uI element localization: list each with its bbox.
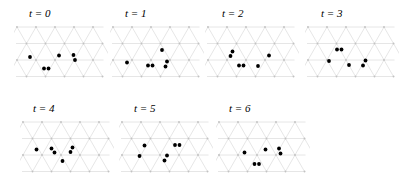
- lattice-node: [51, 171, 53, 173]
- lattice-node: [294, 121, 296, 123]
- particle-dot: [361, 64, 365, 68]
- particle-dot: [125, 61, 129, 65]
- lattice-node: [159, 154, 161, 156]
- particle-dot: [35, 148, 39, 152]
- lattice-plot: [20, 119, 114, 177]
- lattice-node: [264, 26, 266, 28]
- lattice-node: [98, 121, 100, 123]
- particle-dot: [253, 162, 257, 166]
- lattice-node: [245, 59, 247, 61]
- lattice-node: [98, 154, 100, 156]
- particle-dot: [178, 143, 182, 147]
- lattice-edges: [305, 27, 399, 77]
- particle-dot: [61, 159, 65, 163]
- lattice-node: [255, 43, 257, 45]
- lattice-edges: [216, 122, 310, 172]
- lattice-node: [293, 43, 295, 45]
- lattice-node: [35, 59, 37, 61]
- lattice-node: [285, 138, 287, 140]
- lattice-node: [64, 76, 66, 78]
- particle-dot: [163, 159, 167, 163]
- panel-time-label: t = 5: [134, 103, 155, 114]
- lattice-node: [393, 76, 395, 78]
- lattice-node: [22, 121, 24, 123]
- panel-time-label: t = 3: [321, 8, 342, 19]
- particle-dot: [143, 144, 147, 148]
- lattice-node: [217, 76, 219, 78]
- lattice-node: [197, 154, 199, 156]
- lattice-node: [326, 26, 328, 28]
- lattice-node: [89, 138, 91, 140]
- lattice-node: [393, 43, 395, 45]
- lattice-node: [217, 43, 219, 45]
- lattice-node: [131, 26, 133, 28]
- lattice-node: [256, 121, 258, 123]
- lattice-node: [207, 171, 209, 173]
- lattice-node: [140, 121, 142, 123]
- particle-dot: [42, 67, 46, 71]
- lattice-node: [141, 76, 143, 78]
- lattice-node: [150, 138, 152, 140]
- particle-dot: [242, 64, 246, 68]
- lattice-node: [236, 43, 238, 45]
- panel-time-label: t = 2: [222, 8, 243, 19]
- lattice-node: [178, 121, 180, 123]
- particle-dot: [28, 55, 32, 59]
- lattice-gas-figure: t = 0t = 1t = 2t = 3t = 4t = 5t = 6: [0, 0, 419, 195]
- lattice-node: [218, 154, 220, 156]
- lattice-node: [60, 154, 62, 156]
- particle-dot: [47, 67, 51, 71]
- lattice-node: [245, 26, 247, 28]
- lattice-edges: [119, 122, 213, 172]
- panel-time-label: t = 6: [229, 103, 250, 114]
- lattice-node: [169, 59, 171, 61]
- lattice-node: [51, 138, 53, 140]
- lattice-node: [112, 26, 114, 28]
- lattice-node: [70, 138, 72, 140]
- lattice-node: [274, 43, 276, 45]
- lattice-node: [169, 171, 171, 173]
- lattice-node: [121, 154, 123, 156]
- lattice-node: [178, 154, 180, 156]
- lattice-node: [16, 26, 18, 28]
- particle-dot: [229, 54, 233, 58]
- lattice-node: [121, 121, 123, 123]
- lattice-node: [169, 138, 171, 140]
- lattice-node: [64, 43, 66, 45]
- lattice-edges: [20, 122, 114, 172]
- lattice-node: [374, 76, 376, 78]
- lattice-node: [283, 59, 285, 61]
- panel-time-label: t = 4: [33, 103, 54, 114]
- lattice-node: [60, 121, 62, 123]
- particle-dot: [231, 50, 235, 54]
- lattice-node: [317, 76, 319, 78]
- lattice-node: [345, 26, 347, 28]
- lattice-node: [198, 76, 200, 78]
- lattice-node: [304, 171, 306, 173]
- particle-dot: [173, 143, 177, 147]
- lattice-node: [345, 59, 347, 61]
- particle-dot: [257, 162, 261, 166]
- lattice-node: [73, 26, 75, 28]
- lattice-node: [255, 76, 257, 78]
- lattice-node: [207, 138, 209, 140]
- lattice-node: [188, 171, 190, 173]
- lattice-node: [35, 26, 37, 28]
- particle-dot: [256, 64, 260, 68]
- lattice-node: [275, 121, 277, 123]
- lattice-edges: [14, 27, 108, 77]
- lattice-plot: [119, 119, 213, 177]
- lattice-node: [274, 76, 276, 78]
- lattice-node: [237, 121, 239, 123]
- lattice-node: [160, 43, 162, 45]
- particle-dot: [327, 59, 331, 63]
- particle-dot: [71, 146, 75, 150]
- lattice-node: [374, 43, 376, 45]
- particle-dot: [335, 48, 339, 52]
- lattice-node: [169, 26, 171, 28]
- lattice-node: [236, 76, 238, 78]
- lattice-plot: [110, 24, 204, 82]
- lattice-node: [364, 26, 366, 28]
- lattice-node: [92, 59, 94, 61]
- particle-dot: [364, 59, 368, 63]
